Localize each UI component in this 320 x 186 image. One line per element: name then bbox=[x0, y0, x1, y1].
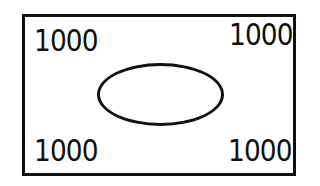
corner-label-top-right: 1000 bbox=[229, 20, 293, 50]
corner-label-bottom-left: 1000 bbox=[34, 136, 98, 166]
corner-label-bottom-right: 1000 bbox=[228, 136, 292, 166]
corner-label-top-left: 1000 bbox=[34, 26, 98, 56]
center-ellipse bbox=[97, 63, 224, 126]
